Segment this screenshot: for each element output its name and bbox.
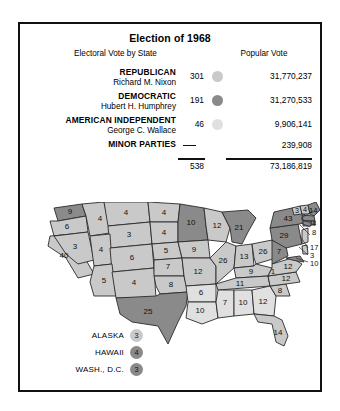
state-label-VT: 3 [295, 206, 299, 215]
territory-label: ALASKA [28, 331, 124, 340]
state-label-AZ: 5 [102, 276, 107, 285]
legend-subheaders: Electoral Vote by State Popular Vote [20, 49, 320, 63]
party-row-democratic: DEMOCRATIC Hubert H. Humphrey 191 31,270… [20, 89, 320, 113]
legend-panel: Election of 1968 Electoral Vote by State… [20, 24, 320, 176]
state-label-NC: 12 [282, 274, 291, 283]
party-label: REPUBLICAN [20, 67, 176, 78]
state-label-SD: 4 [162, 228, 167, 237]
popular-vote-value: 31,270,533 [226, 95, 312, 105]
electoral-vote-value: 191 [180, 95, 204, 105]
state-label-FL: 14 [274, 328, 283, 337]
candidate-name: Richard M. Nixon [20, 78, 176, 89]
subhead-popular-vote: Popular Vote [216, 49, 312, 58]
total-popular-vote: 73,186,819 [226, 161, 312, 171]
state-label-UT: 4 [99, 245, 104, 254]
em-dash-icon [183, 145, 196, 146]
state-label-PA: 29 [280, 231, 289, 240]
state-label-OH: 26 [259, 247, 268, 256]
party-row-american-independent: AMERICAN INDEPENDENT George C. Wallace 4… [20, 113, 320, 137]
state-label-SC: 8 [278, 286, 283, 295]
popular-vote-value: 9,906,141 [226, 119, 312, 129]
state-label-MS: 7 [223, 298, 228, 307]
state-label-NY: 43 [284, 214, 293, 223]
divider-popular [226, 158, 312, 160]
popular-vote-value: 31,770,237 [226, 71, 312, 81]
party-name-block: REPUBLICAN Richard M. Nixon [20, 67, 176, 88]
state-label-MI: 21 [235, 223, 244, 232]
state-label-KS: 7 [166, 262, 171, 271]
state-label-MN: 10 [187, 218, 196, 227]
state-label-KY: 9 [249, 267, 254, 276]
party-color-swatch [212, 71, 223, 82]
state-label-WI: 12 [213, 221, 222, 230]
election-map-figure: Election of 1968 Electoral Vote by State… [18, 22, 322, 392]
state-label-TX: 25 [144, 307, 153, 316]
state-label-CO: 6 [130, 253, 135, 262]
territory-swatch: 3 [130, 363, 143, 376]
state-label-TN: 11 [236, 279, 245, 288]
territory-list: ALASKA 3 HAWAII 4 WASH., D.C. 3 [28, 328, 178, 379]
state-label-NH: 4 [303, 205, 307, 214]
state-label-MD-inline: 1 [271, 267, 275, 276]
candidate-name: Hubert H. Humphrey [20, 102, 176, 113]
state-label-IA: 9 [192, 245, 197, 254]
state-label-AR: 6 [199, 288, 204, 297]
popular-vote-value: 239,908 [226, 140, 312, 150]
party-row-republican: REPUBLICAN Richard M. Nixon 301 31,770,2… [20, 65, 320, 89]
state-label-MO: 12 [194, 267, 203, 276]
territory-swatch: 3 [130, 329, 143, 342]
callout-label-MA-RI: 4 [312, 219, 316, 228]
party-color-swatch [212, 119, 223, 130]
state-label-CA: 40 [60, 251, 69, 260]
state-label-WA: 9 [68, 207, 73, 216]
state-label-NE: 5 [164, 246, 169, 255]
state-label-WY: 3 [127, 230, 132, 239]
state-label-LA: 10 [196, 306, 205, 315]
territory-swatch: 4 [130, 346, 143, 359]
state-label-ID: 4 [98, 214, 103, 223]
state-label-WV: 7 [277, 247, 282, 256]
state-label-IL: 26 [219, 256, 228, 265]
territory-row-washington-dc: WASH., D.C. 3 [28, 362, 178, 379]
total-electoral-votes: 538 [176, 161, 204, 171]
state-label-OR: 6 [65, 222, 70, 231]
state-label-OK: 8 [169, 280, 174, 289]
callout-label-MD: 10 [310, 259, 318, 268]
state-label-GA: 12 [259, 297, 268, 306]
party-label: MINOR PARTIES [20, 139, 176, 150]
totals-row: 538 73,186,819 [20, 158, 320, 176]
party-color-swatch [212, 95, 223, 106]
callout-label-CT: 8 [312, 228, 316, 237]
candidate-name: George C. Wallace [20, 126, 176, 137]
state-label-NM: 4 [132, 278, 137, 287]
party-label: AMERICAN INDEPENDENT [20, 115, 176, 126]
state-label-MT: 4 [124, 208, 129, 217]
electoral-vote-value: 46 [180, 119, 204, 129]
state-label-AL: 10 [239, 298, 248, 307]
state-FL[interactable] [254, 314, 288, 346]
territory-label: HAWAII [28, 348, 124, 357]
electoral-vote-value: 301 [180, 71, 204, 81]
party-name-block: MINOR PARTIES [20, 139, 176, 150]
state-label-NV: 3 [73, 242, 78, 251]
territory-label: WASH., D.C. [28, 365, 124, 374]
party-label: DEMOCRATIC [20, 91, 176, 102]
state-label-VA: 12 [284, 262, 293, 271]
territory-row-hawaii: HAWAII 4 [28, 345, 178, 362]
subhead-electoral-vote: Electoral Vote by State [38, 49, 193, 58]
party-rows: REPUBLICAN Richard M. Nixon 301 31,770,2… [20, 65, 320, 176]
divider-electoral [178, 158, 205, 160]
party-row-minor-parties: MINOR PARTIES 239,908 [20, 137, 320, 157]
state-label-ND: 4 [162, 208, 167, 217]
page-title: Election of 1968 [20, 32, 320, 44]
party-name-block: DEMOCRATIC Hubert H. Humphrey [20, 91, 176, 112]
callout-label-ME: 14 [309, 206, 317, 215]
party-name-block: AMERICAN INDEPENDENT George C. Wallace [20, 115, 176, 136]
state-label-IN: 13 [240, 252, 249, 261]
territory-row-alaska: ALASKA 3 [28, 328, 178, 345]
